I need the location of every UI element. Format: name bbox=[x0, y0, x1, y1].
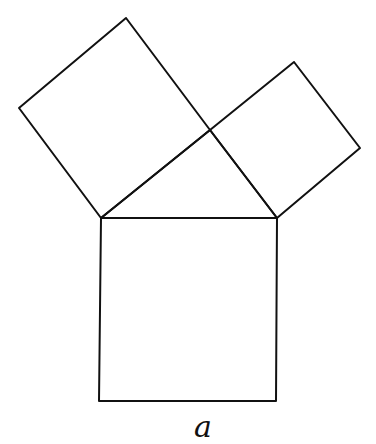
pythagoras-diagram bbox=[0, 0, 376, 444]
bottom-square bbox=[99, 218, 277, 401]
left-square bbox=[19, 18, 210, 218]
right-square bbox=[210, 62, 360, 218]
figure-label: a bbox=[194, 412, 212, 442]
right-triangle bbox=[101, 130, 277, 218]
